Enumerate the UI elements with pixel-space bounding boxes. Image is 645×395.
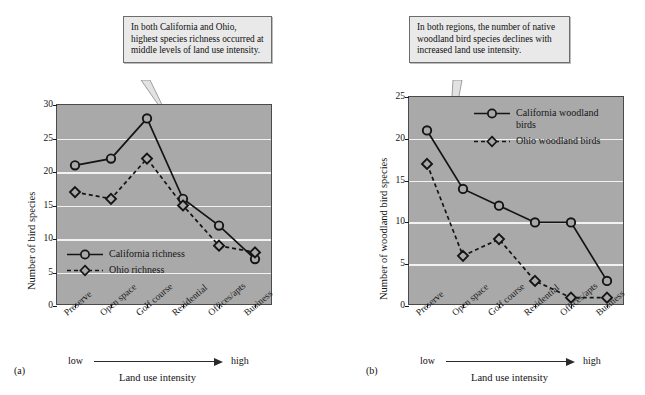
- y-tick-label: 15: [44, 201, 54, 211]
- y-tick-label: 5: [400, 259, 405, 269]
- y-tick-label: 30: [44, 100, 54, 110]
- legend-item: Ohio woodland birds: [473, 135, 602, 148]
- legend-marker-circle-icon: [66, 248, 104, 261]
- legend-item: California woodland birds: [473, 107, 602, 130]
- panel-a: In both California and Ohio, highest spe…: [0, 0, 322, 395]
- legend-label: Ohio woodland birds: [516, 135, 600, 147]
- y-axis-label-b: Number of woodland bird species: [378, 158, 389, 300]
- y-tick-label: 25: [396, 92, 406, 102]
- legend-label: California woodland birds: [516, 107, 602, 130]
- y-tick-label: 15: [396, 176, 406, 186]
- legend-marker-circle-icon: [473, 107, 511, 120]
- legend-label: Ohio richness: [109, 264, 164, 276]
- x-axis-title-b: Land use intensity: [471, 372, 548, 383]
- intensity-high-label: high: [231, 355, 249, 366]
- y-axis-label-a: Number of bird species: [26, 192, 37, 290]
- callout-a: In both California and Ohio, highest spe…: [123, 16, 272, 63]
- x-axis-title-a: Land use intensity: [119, 372, 196, 383]
- legend-marker-diamond-icon: [66, 264, 104, 277]
- y-tick-label: 10: [396, 218, 406, 228]
- legend-b: California woodland birds Ohio woodland …: [473, 107, 602, 151]
- y-tick-label: 25: [44, 134, 54, 144]
- intensity-arrow-line: [94, 361, 216, 362]
- legend-marker-diamond-icon: [473, 135, 511, 148]
- y-tick-label: 20: [396, 134, 406, 144]
- intensity-arrow-head-icon: [566, 358, 575, 366]
- legend-item: Ohio richness: [66, 264, 185, 277]
- intensity-arrow-head-icon: [214, 358, 223, 366]
- y-tick-label: 0: [400, 301, 405, 311]
- intensity-low-label: low: [68, 355, 83, 366]
- y-tick-mark: [53, 306, 57, 307]
- y-tick-label: 10: [44, 234, 54, 244]
- panel-id-b: (b): [366, 365, 378, 376]
- callout-b: In both regions, the number of native wo…: [409, 16, 570, 63]
- panel-b: In both regions, the number of native wo…: [323, 0, 645, 395]
- y-tick-label: 20: [44, 167, 54, 177]
- legend-item: California richness: [66, 248, 185, 261]
- intensity-high-label: high: [583, 355, 601, 366]
- panel-id-a: (a): [14, 365, 25, 376]
- y-tick-mark: [405, 306, 409, 307]
- intensity-arrow-line: [446, 361, 568, 362]
- y-tick-label: 0: [48, 301, 53, 311]
- intensity-low-label: low: [420, 355, 435, 366]
- y-tick-label: 5: [48, 268, 53, 278]
- legend-label: California richness: [109, 248, 185, 260]
- legend-a: California richness Ohio richness: [66, 248, 185, 280]
